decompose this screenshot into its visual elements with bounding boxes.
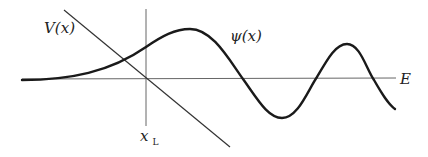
wavefunction-curve — [22, 29, 395, 118]
turning-point-subscript: L — [152, 137, 158, 147]
turning-point-label: x L — [140, 127, 158, 147]
energy-level-line — [22, 78, 396, 79]
wavefunction-label: ψ(x) — [230, 27, 262, 45]
potential-label: V(x) — [44, 19, 75, 37]
wavefunction-diagram: V(x) ψ(x) E x L — [0, 0, 428, 157]
energy-label: E — [399, 70, 411, 88]
turning-point-x: x — [140, 127, 149, 145]
